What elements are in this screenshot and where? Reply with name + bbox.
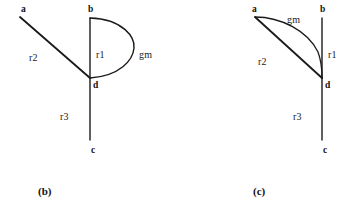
- edge-gm-panel-b: [90, 18, 134, 78]
- figure-container: a b d c r1 r2 r3 gm a b d c r1 r2 r3 gm …: [0, 0, 351, 214]
- edge-r2-panel-c: [255, 17, 322, 78]
- panel-c-strokes: [255, 17, 322, 140]
- node-label-a-panel-c: a: [252, 4, 257, 14]
- edge-label-r2-panel-b: r2: [29, 52, 38, 63]
- node-label-c-panel-c: c: [323, 145, 327, 155]
- node-label-b-panel-c: b: [320, 4, 325, 14]
- diagram-canvas: [0, 0, 351, 214]
- edge-r2-panel-b: [20, 17, 90, 78]
- edge-label-r1-panel-b: r1: [96, 49, 105, 60]
- edge-label-gm-panel-c: gm: [287, 14, 300, 25]
- caption-panel-b: (b): [38, 185, 51, 197]
- node-label-c-panel-b: c: [91, 145, 95, 155]
- node-label-d-panel-c: d: [325, 80, 330, 90]
- caption-panel-c: (c): [253, 185, 265, 197]
- edge-label-r3-panel-b: r3: [60, 111, 69, 122]
- node-label-a-panel-b: a: [21, 4, 26, 14]
- panel-b-strokes: [20, 17, 134, 140]
- node-label-b-panel-b: b: [88, 4, 93, 14]
- edge-label-gm-panel-b: gm: [139, 49, 152, 60]
- node-label-d-panel-b: d: [93, 80, 98, 90]
- edge-label-r1-panel-c: r1: [328, 49, 337, 60]
- edge-label-r3-panel-c: r3: [293, 111, 302, 122]
- edge-label-r2-panel-c: r2: [258, 56, 267, 67]
